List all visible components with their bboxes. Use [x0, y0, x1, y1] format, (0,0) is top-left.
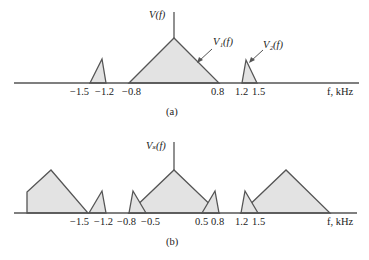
tick-b-neg1.2: −1.2	[94, 217, 113, 228]
tick-b-neg1.5: −1.5	[70, 217, 89, 228]
panel-a-ylabel: V(f)	[149, 10, 165, 21]
tick-b-0.5: 0.5	[195, 217, 208, 228]
tick-a-neg1.5: −1.5	[70, 87, 89, 98]
tick-a-neg0.8: −0.8	[122, 87, 141, 98]
tick-b-1.5: 1.5	[252, 217, 265, 228]
left-copy-triangle	[27, 170, 88, 213]
small-tri-neg15	[89, 191, 106, 213]
v1-label: V₁(f)	[213, 37, 233, 48]
tick-a-0.8: 0.8	[211, 87, 224, 98]
v2-positive-triangle	[242, 60, 257, 83]
v2-negative-triangle	[90, 59, 106, 83]
panel-b-caption: (b)	[166, 237, 178, 248]
v1-triangle	[129, 38, 219, 83]
tick-a-neg1.2: −1.2	[95, 87, 114, 98]
tick-b-neg0.8: −0.8	[117, 217, 136, 228]
tick-a-1.5: 1.5	[252, 87, 265, 98]
panel-b-xlabel: f, kHz	[327, 217, 353, 228]
panel-a-plot	[14, 12, 359, 83]
tick-b-neg0.5: −0.5	[141, 217, 160, 228]
panel-b-plot	[14, 142, 357, 213]
panel-b-ylabel: Vₛ(f)	[146, 141, 166, 152]
tick-b-0.8: 0.8	[211, 217, 224, 228]
panel-a-caption: (a)	[166, 107, 178, 118]
tick-a-1.2: 1.2	[235, 87, 248, 98]
tick-b-1.2: 1.2	[235, 217, 248, 228]
panel-a-xlabel: f, kHz	[327, 87, 353, 98]
v2-label: V₂(f)	[263, 40, 283, 51]
spectrum-diagram	[0, 0, 369, 260]
